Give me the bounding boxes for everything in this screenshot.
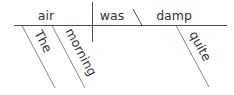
modifier-word-morning: morning xyxy=(62,25,100,78)
subject-word: air xyxy=(38,8,55,23)
modifier-word-quite: quite xyxy=(186,28,214,64)
predicate-adjective-word: damp xyxy=(156,8,192,23)
predicate-divider xyxy=(133,9,142,26)
sentence-diagram: air was damp The morning quite xyxy=(0,0,234,95)
verb-word: was xyxy=(100,8,124,23)
modifier-word-the: The xyxy=(31,26,56,55)
